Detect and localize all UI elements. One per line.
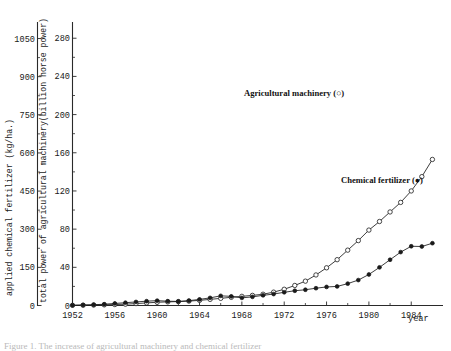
data-point bbox=[81, 303, 85, 307]
figure-caption: Figure 1. The increase of agricultural m… bbox=[4, 341, 447, 351]
ticklabel: 120 bbox=[55, 187, 70, 197]
data-point bbox=[71, 303, 75, 307]
data-point bbox=[187, 299, 191, 303]
data-point bbox=[198, 298, 202, 302]
data-point bbox=[282, 290, 286, 294]
left-outer-ticklabels: 01503004506007509001050 bbox=[14, 35, 35, 312]
data-point bbox=[356, 238, 360, 242]
data-point bbox=[378, 265, 382, 269]
data-point bbox=[208, 296, 212, 300]
data-point bbox=[431, 241, 435, 245]
ticklabel: 1952 bbox=[62, 311, 83, 321]
ticklabel: 1960 bbox=[147, 311, 168, 321]
ticklabel: 80 bbox=[60, 225, 70, 235]
ticklabel: 150 bbox=[20, 263, 35, 273]
data-point bbox=[293, 289, 297, 293]
ticklabel: 1956 bbox=[105, 311, 126, 321]
data-point bbox=[145, 299, 149, 303]
legend-label-agricultural-machinery: Agricultural machinery (○) bbox=[244, 88, 344, 98]
data-point bbox=[134, 300, 138, 304]
x-axis-label: year bbox=[408, 314, 429, 324]
left-outer-axis-title: applied chemical fertilizer (kg/ha.) bbox=[5, 119, 14, 296]
data-point bbox=[335, 285, 339, 289]
data-point bbox=[377, 219, 381, 223]
ticklabel: 600 bbox=[20, 149, 35, 159]
data-point bbox=[240, 296, 244, 300]
data-point bbox=[303, 279, 307, 283]
ticklabel: 1972 bbox=[274, 311, 295, 321]
data-point bbox=[325, 285, 329, 289]
data-point bbox=[367, 273, 371, 277]
data-point bbox=[102, 302, 106, 306]
data-point bbox=[176, 300, 180, 304]
ticklabel: 1964 bbox=[189, 311, 210, 321]
data-point bbox=[356, 278, 360, 282]
data-point bbox=[324, 266, 328, 270]
ticklabel: 280 bbox=[55, 34, 70, 44]
ticklabel: 1980 bbox=[359, 311, 380, 321]
data-point bbox=[293, 283, 297, 287]
ticklabel: 750 bbox=[20, 111, 35, 121]
data-point bbox=[229, 294, 233, 298]
data-point bbox=[346, 248, 350, 252]
data-point bbox=[399, 250, 403, 254]
data-point bbox=[430, 157, 434, 161]
ticklabel: 1976 bbox=[316, 311, 337, 321]
ticklabel: 1968 bbox=[232, 311, 253, 321]
data-point bbox=[113, 302, 117, 306]
data-point bbox=[272, 292, 276, 296]
ticklabel: 0 bbox=[30, 302, 35, 312]
data-point bbox=[251, 295, 255, 299]
data-point bbox=[219, 294, 223, 298]
ticklabel: 900 bbox=[20, 73, 35, 83]
data-point bbox=[261, 293, 265, 297]
series-markers-chemical-fertilizer bbox=[71, 241, 435, 307]
data-point bbox=[346, 282, 350, 286]
ticklabel: 450 bbox=[20, 187, 35, 197]
data-point bbox=[92, 303, 96, 307]
left-inner-ticks bbox=[73, 38, 77, 305]
ticklabel: 240 bbox=[55, 72, 70, 82]
ticklabel: 300 bbox=[20, 225, 35, 235]
data-point bbox=[388, 258, 392, 262]
data-point bbox=[388, 210, 392, 214]
data-point bbox=[420, 245, 424, 249]
x-axis-ticklabels: 195219561960196419681972197619801984 bbox=[62, 311, 421, 321]
ticklabel: 160 bbox=[55, 149, 70, 159]
data-point bbox=[166, 299, 170, 303]
data-point bbox=[409, 189, 413, 193]
data-point bbox=[335, 257, 339, 261]
left-inner-ticklabels: 04080120160200240280 bbox=[55, 34, 70, 311]
data-point bbox=[398, 200, 402, 204]
data-point bbox=[409, 244, 413, 248]
ticklabel: 200 bbox=[55, 111, 70, 121]
data-point bbox=[314, 273, 318, 277]
data-point bbox=[155, 299, 159, 303]
data-point bbox=[124, 301, 128, 305]
ticklabel: 1050 bbox=[14, 35, 35, 45]
data-point bbox=[314, 286, 318, 290]
data-point bbox=[367, 228, 371, 232]
ticklabel: 40 bbox=[60, 263, 70, 273]
left-inner-axis-title: total power of agricultural machinery(bi… bbox=[39, 18, 48, 303]
data-point bbox=[303, 288, 307, 292]
legend-label-chemical-fertilizer: Chemical fertilizer (●) bbox=[341, 175, 423, 185]
